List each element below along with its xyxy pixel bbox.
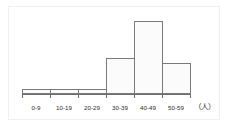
x-tick-3 [106, 94, 107, 98]
x-tick-label-3: 30-39 [106, 104, 134, 112]
x-tick-label-1: 10-19 [50, 104, 78, 112]
bar-40-49 [134, 21, 163, 94]
bar-30-39 [106, 58, 135, 94]
plot-area: 0-9 10-19 20-29 30-39 40-49 50-59 （人） [0, 0, 230, 130]
x-tick-label-5: 50-59 [162, 104, 190, 112]
histogram-screenshot: 0-9 10-19 20-29 30-39 40-49 50-59 （人） [0, 0, 230, 130]
bars-layer [0, 0, 230, 95]
x-tick-2 [78, 94, 79, 98]
x-axis-unit-label: （人） [194, 103, 215, 113]
bar-50-59 [162, 63, 191, 94]
x-tick-1 [50, 94, 51, 98]
x-tick-label-0: 0-9 [22, 104, 50, 112]
x-tick-6 [190, 94, 191, 98]
x-tick-0 [22, 94, 23, 98]
x-tick-label-2: 20-29 [78, 104, 106, 112]
x-tick-label-4: 40-49 [134, 104, 162, 112]
x-tick-4 [134, 94, 135, 98]
x-tick-5 [162, 94, 163, 98]
